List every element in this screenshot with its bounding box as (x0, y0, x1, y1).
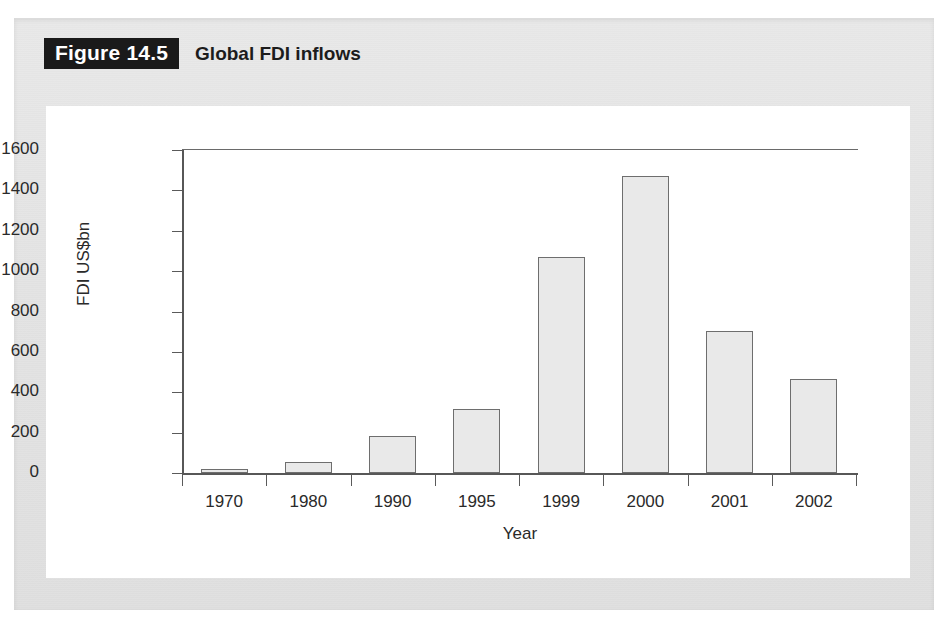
bar-1980 (285, 462, 332, 473)
x-axis-tick-label: 1970 (205, 492, 243, 512)
chart-panel: 02004006008001000120014001600 1970198019… (46, 106, 910, 578)
x-axis-line (182, 473, 858, 475)
x-axis-tick (435, 475, 436, 486)
y-axis-tick-label: 800 (11, 301, 39, 321)
figure-header: Figure 14.5 Global FDI inflows (44, 38, 361, 69)
y-axis-tick-label-wrap: 200 (46, 433, 182, 434)
x-axis-tick (856, 475, 857, 486)
x-axis-tick-label: 1995 (458, 492, 496, 512)
bar-2001 (706, 331, 753, 473)
y-axis-tick-label: 1600 (1, 139, 39, 159)
y-axis-tick-label: 0 (30, 462, 39, 482)
x-axis-tick (772, 475, 773, 486)
x-axis-tick-label: 2000 (626, 492, 664, 512)
x-axis-tick (519, 475, 520, 486)
y-axis-tick-label-wrap: 400 (46, 392, 182, 393)
bar-2000 (622, 176, 669, 473)
y-axis-tick-label: 1000 (1, 260, 39, 280)
x-axis-tick (266, 475, 267, 486)
y-axis-title: FDI US$bn (74, 222, 94, 306)
y-axis-tick-label: 400 (11, 381, 39, 401)
bar-1970 (201, 469, 248, 473)
x-axis-tick-label: 2001 (711, 492, 749, 512)
y-axis-tick-label-wrap: 1600 (46, 150, 182, 151)
y-axis-tick-label-wrap: 0 (46, 473, 182, 474)
y-axis-tick-label: 200 (11, 422, 39, 442)
x-axis-title: Year (182, 524, 858, 544)
x-axis-tick-label: 1999 (542, 492, 580, 512)
y-axis-tick-label-wrap: 1200 (46, 231, 182, 232)
figure-caption: Global FDI inflows (195, 43, 361, 65)
y-axis-tick-label: 1200 (1, 220, 39, 240)
x-axis-tick-label: 2002 (795, 492, 833, 512)
bar-1999 (538, 257, 585, 473)
y-axis-tick-label-wrap: 1400 (46, 190, 182, 191)
figure-number-badge: Figure 14.5 (44, 38, 179, 69)
y-axis-tick-label-wrap: 1000 (46, 271, 182, 272)
bar-chart: 02004006008001000120014001600 1970198019… (46, 106, 910, 578)
x-axis-tick-label: 1980 (289, 492, 327, 512)
y-axis-tick-label-wrap: 800 (46, 312, 182, 313)
x-axis-tick (603, 475, 604, 486)
y-axis-tick-label: 1400 (1, 179, 39, 199)
x-axis-tick (351, 475, 352, 486)
bar-1990 (369, 436, 416, 473)
y-axis-tick-label-wrap: 600 (46, 352, 182, 353)
plot-area (182, 150, 856, 473)
x-axis-tick (182, 475, 183, 486)
y-axis-tick-label: 600 (11, 341, 39, 361)
bar-1995 (453, 409, 500, 473)
bar-2002 (790, 379, 837, 473)
x-axis-tick (688, 475, 689, 486)
x-axis-tick-label: 1990 (374, 492, 412, 512)
